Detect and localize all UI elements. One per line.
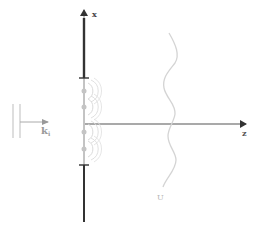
lower-barrier	[79, 165, 89, 222]
diffraction-diagram: ki x z U	[0, 0, 258, 234]
hole-1	[82, 78, 102, 104]
field-wave-curve	[163, 33, 177, 187]
upper-barrier	[79, 18, 89, 78]
x-axis-label: x	[92, 9, 97, 19]
z-axis-label: z	[242, 128, 247, 138]
hole-2	[82, 94, 102, 120]
incident-wavefronts	[13, 104, 20, 138]
hole-3	[82, 119, 102, 145]
field-wave-label: U	[157, 193, 164, 202]
wave-vector-label: ki	[41, 125, 51, 137]
hole-4	[82, 136, 102, 162]
